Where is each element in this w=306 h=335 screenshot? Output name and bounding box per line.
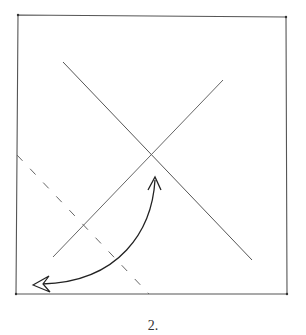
step-number-label: 2. [0, 318, 306, 334]
diagonal-crease-nw-se [63, 62, 252, 260]
diagonal-crease-ne-sw [53, 80, 223, 257]
valley-fold-line [17, 155, 149, 294]
fold-arrow-curve [42, 180, 155, 284]
origami-diagram [0, 0, 306, 335]
